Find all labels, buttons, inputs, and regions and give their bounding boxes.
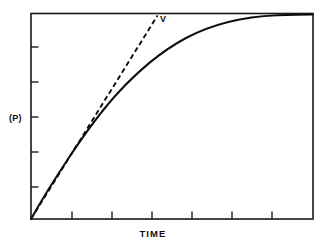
tangent-velocity-label: V [160, 14, 166, 24]
y-axis-label: (P) [9, 113, 22, 123]
chart-figure: (P) TIME V [0, 0, 333, 242]
x-axis-label: TIME [139, 228, 166, 239]
chart-background [0, 0, 333, 242]
